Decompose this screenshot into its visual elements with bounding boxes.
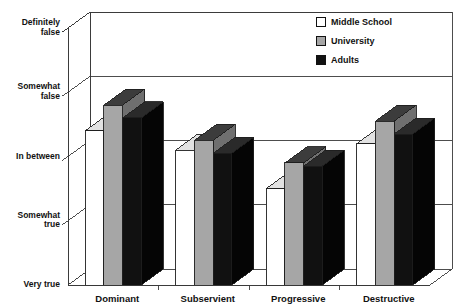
y-axis-tick-somewhat-false: Somewhatfalse	[2, 82, 60, 101]
legend-swatch-icon-adults	[316, 55, 326, 65]
bar-subservient-adults	[213, 137, 254, 285]
legend-item-adults[interactable]: Adults	[316, 52, 392, 67]
legend-item-middle-school[interactable]: Middle School	[316, 14, 392, 29]
y-axis-tick-somewhat-true: Somewhattrue	[2, 211, 60, 230]
y-axis-tick-in-between: In between	[2, 152, 60, 162]
y-axis-tick-definitely-false: Definitelyfalse	[2, 18, 60, 37]
bar-dominant-adults	[123, 102, 164, 285]
bar-progressive-adults	[304, 150, 345, 285]
bar-destructive-adults	[394, 118, 435, 285]
y-axis-tick-very-true: Very true	[2, 280, 60, 290]
legend-label-middle-school: Middle School	[331, 17, 392, 27]
legend-item-university[interactable]: University	[316, 33, 392, 48]
legend-swatch-icon-university	[316, 36, 326, 46]
chart-container: Adult Roles Very trueSomewhattrueIn betw…	[0, 0, 454, 307]
x-axis-tick-dominant: Dominant	[72, 293, 163, 304]
x-axis-tick-subservient: Subservient	[163, 293, 254, 304]
x-axis-tick-destructive: Destructive	[344, 293, 435, 304]
legend-label-university: University	[331, 36, 375, 46]
legend-label-adults: Adults	[331, 55, 359, 65]
x-axis-tick-progressive: Progressive	[253, 293, 344, 304]
chart-legend: Middle School University Adults	[316, 14, 392, 71]
legend-swatch-icon-middle-school	[316, 17, 326, 27]
